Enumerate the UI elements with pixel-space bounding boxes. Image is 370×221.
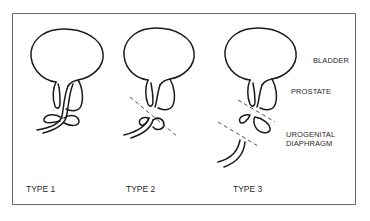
type3-injury-line-lower bbox=[218, 122, 258, 146]
type2-bladder-shape bbox=[124, 28, 194, 85]
label-type1: TYPE 1 bbox=[26, 184, 55, 194]
type3-injury-line-upper bbox=[238, 100, 275, 122]
label-bladder: BLADDER bbox=[313, 56, 349, 65]
type3-urethra-upper bbox=[257, 85, 262, 107]
label-urogenital: UROGENITAL bbox=[286, 130, 335, 139]
type2-urethra-upper bbox=[155, 85, 160, 107]
type3-bladder-shape bbox=[225, 28, 296, 85]
type1-bladder-shape bbox=[31, 29, 103, 86]
type1-prostate-left bbox=[53, 82, 60, 108]
type2-urethra-lower-b bbox=[131, 120, 153, 138]
type1-diaphragm-right bbox=[64, 116, 79, 126]
label-type3: TYPE 3 bbox=[233, 184, 262, 194]
type2-diaphragm-left bbox=[139, 117, 149, 125]
type3-urethra-lower-b bbox=[224, 142, 245, 167]
label-type2: TYPE 2 bbox=[126, 184, 155, 194]
type3-drawing bbox=[218, 28, 296, 167]
urethral-injury-diagram bbox=[0, 0, 370, 221]
label-diaphragm: DIAPHRAGM bbox=[286, 139, 332, 148]
label-prostate: PROSTATE bbox=[291, 87, 331, 96]
type1-diaphragm-left bbox=[44, 115, 62, 123]
type2-prostate-left bbox=[146, 80, 153, 106]
type3-diaphragm-left bbox=[240, 115, 250, 123]
type3-diaphragm-right bbox=[254, 117, 270, 133]
type2-urethra-lower-a bbox=[124, 118, 149, 135]
type3-prostate-left bbox=[248, 80, 255, 106]
type1-drawing bbox=[31, 29, 103, 133]
